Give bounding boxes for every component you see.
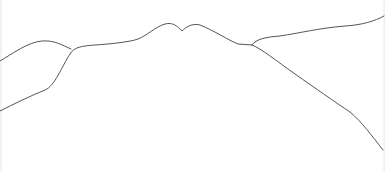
right-lower-branch-line: [252, 45, 383, 150]
left-upper-ridge-line: [0, 41, 71, 61]
ridge-line-drawing: [0, 0, 385, 172]
right-upper-branch-line: [252, 16, 384, 45]
main-ridge-line: [0, 23, 252, 111]
line-drawing-canvas: [0, 0, 385, 172]
